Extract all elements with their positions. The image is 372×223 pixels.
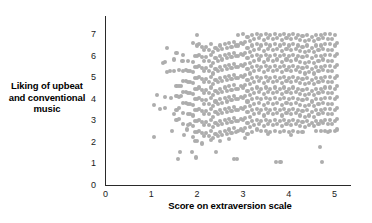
data-point — [177, 117, 181, 121]
data-point — [243, 136, 247, 140]
data-point — [178, 150, 182, 154]
data-point — [289, 112, 293, 116]
data-point — [275, 101, 279, 105]
data-point — [195, 33, 199, 37]
data-point — [298, 49, 302, 53]
x-axis-label: Score on extraversion scale — [105, 200, 355, 211]
data-point — [320, 160, 324, 164]
data-point — [328, 32, 332, 36]
data-point — [333, 33, 337, 37]
data-point — [182, 133, 186, 137]
data-point — [211, 115, 215, 119]
data-point — [298, 124, 302, 128]
data-point — [323, 85, 327, 89]
data-point — [264, 42, 268, 46]
data-point — [207, 59, 211, 63]
data-point — [328, 42, 332, 46]
data-point — [211, 61, 215, 65]
data-point — [214, 150, 218, 154]
data-point — [289, 133, 293, 137]
data-point — [278, 97, 282, 101]
data-point — [296, 97, 300, 101]
data-point — [259, 76, 263, 80]
data-point — [303, 82, 307, 86]
data-point — [300, 77, 304, 81]
data-point — [321, 47, 325, 51]
data-point — [163, 95, 167, 99]
data-point — [307, 113, 311, 117]
data-point — [326, 37, 330, 41]
data-point — [255, 96, 259, 100]
data-point — [225, 46, 229, 50]
data-point — [305, 87, 309, 91]
data-point — [243, 94, 247, 98]
data-point — [220, 101, 224, 105]
data-point — [330, 102, 334, 106]
data-point — [209, 42, 213, 46]
data-point — [321, 36, 325, 40]
data-point — [330, 37, 334, 41]
data-point — [268, 97, 272, 101]
data-point — [229, 55, 233, 59]
data-point — [312, 82, 316, 86]
data-point — [316, 59, 320, 63]
data-point — [280, 124, 284, 128]
x-tick-label: 4 — [282, 189, 296, 199]
data-point — [243, 83, 247, 87]
data-point — [174, 51, 178, 55]
data-point — [326, 69, 330, 73]
data-point — [273, 129, 277, 133]
data-point — [300, 109, 304, 113]
data-point — [296, 33, 300, 37]
data-point — [163, 60, 167, 64]
data-point — [282, 96, 286, 100]
data-point — [252, 102, 256, 106]
data-point — [211, 125, 215, 129]
data-point — [328, 64, 332, 68]
data-point — [312, 71, 316, 75]
data-point — [262, 113, 266, 117]
data-point — [243, 51, 247, 55]
data-point — [191, 70, 195, 74]
data-point — [211, 50, 215, 54]
data-point — [330, 69, 334, 73]
data-point — [202, 102, 206, 106]
data-point — [282, 129, 286, 133]
data-point — [241, 32, 245, 36]
data-point — [220, 133, 224, 137]
data-point — [305, 54, 309, 58]
data-point — [335, 41, 339, 45]
data-point — [250, 54, 254, 58]
data-point — [207, 91, 211, 95]
data-point — [191, 92, 195, 96]
x-tick-label: 2 — [190, 189, 204, 199]
data-point — [248, 71, 252, 75]
data-point — [289, 48, 293, 52]
data-point — [259, 108, 263, 112]
data-point — [328, 107, 332, 111]
data-point — [316, 37, 320, 41]
data-point — [245, 99, 249, 103]
data-point — [172, 112, 176, 116]
data-point — [314, 54, 318, 58]
data-point — [282, 42, 286, 46]
data-point — [273, 96, 277, 100]
data-point — [316, 69, 320, 73]
data-point — [274, 160, 278, 164]
data-point — [271, 112, 275, 116]
data-point — [296, 76, 300, 80]
data-point — [316, 48, 320, 52]
data-point — [220, 111, 224, 115]
data-point — [321, 68, 325, 72]
data-point — [179, 84, 183, 88]
data-point — [211, 93, 215, 97]
data-point — [326, 48, 330, 52]
y-tick-label: 5 — [87, 72, 101, 82]
data-point — [278, 160, 282, 164]
data-point — [264, 96, 268, 100]
data-point — [284, 101, 288, 105]
data-point — [243, 40, 247, 44]
data-point — [294, 101, 298, 105]
data-point — [326, 102, 330, 106]
y-axis-line — [105, 16, 106, 186]
